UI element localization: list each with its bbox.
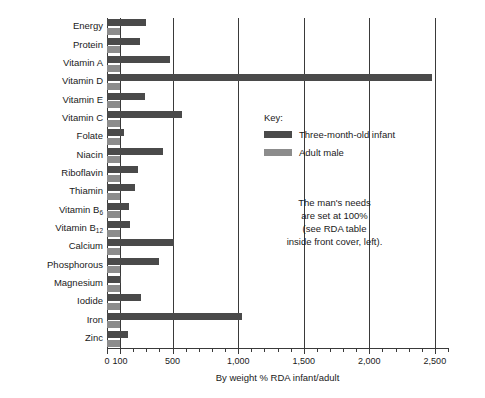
bar-adult [107,193,120,200]
bar-infant [107,129,124,136]
tick-minor [212,348,213,352]
bar-adult [107,138,120,145]
x-axis-title: By weight % RDA infant/adult [107,372,448,383]
bar-infant [107,221,130,228]
category-label: Riboflavin [0,167,103,178]
bar-infant [107,93,145,100]
bar-infant [107,203,129,210]
category-label: Vitamin D [0,75,103,86]
bar-infant [107,166,138,173]
tick-minor [278,348,279,352]
tick-minor [422,348,423,352]
tick-major [435,348,436,354]
category-label: Iodide [0,295,103,306]
rda-bar-chart: 01005001,0001,5002,0002,500 EnergyProtei… [0,0,485,398]
tick-minor [343,348,344,352]
x-tick-label: 2,000 [358,356,381,366]
tick-minor [448,348,449,352]
bar-infant [107,19,146,26]
tick-major [173,348,174,354]
gridline [304,18,305,348]
gridline [238,18,239,348]
legend-label-infant: Three-month-old infant [299,129,395,140]
bar-adult [107,83,120,90]
category-label: Energy [0,20,103,31]
category-label: Vitamin E [0,94,103,105]
tick-minor [225,348,226,352]
bar-infant [107,74,432,81]
x-tick-label: 2,500 [424,356,447,366]
annotation-note: The man's needs are set at 100% (see RDA… [252,196,417,248]
bar-infant [107,184,135,191]
tick-minor [146,348,147,352]
bar-adult [107,156,120,163]
bar-adult [107,101,120,108]
bar-infant [107,239,174,246]
tick-major [107,348,108,354]
legend-swatch-icon-infant [264,131,292,138]
category-label: Niacin [0,149,103,160]
category-label: Folate [0,130,103,141]
bar-infant [107,313,242,320]
tick-minor [409,348,410,352]
bar-adult [107,175,120,182]
category-label: Protein [0,39,103,50]
bar-infant [107,294,141,301]
bar-adult [107,211,120,218]
bar-infant [107,148,163,155]
bar-adult [107,120,120,127]
x-tick-label: 1,000 [227,356,250,366]
tick-major [238,348,239,354]
tick-minor [330,348,331,352]
category-label: Zinc [0,332,103,343]
bar-adult [107,248,120,255]
category-label: Iron [0,314,103,325]
gridline [173,18,174,348]
category-label: Phosphorous [0,259,103,270]
bar-infant [107,111,182,118]
tick-major [120,348,121,354]
category-label: Calcium [0,240,103,251]
bar-adult [107,340,120,347]
legend: Key: Three-month-old infant Adult male [264,112,395,165]
tick-minor [382,348,383,352]
bar-adult [107,28,120,35]
legend-entry-adult: Adult male [264,147,395,158]
tick-minor [264,348,265,352]
bar-adult [107,46,120,53]
tick-minor [251,348,252,352]
tick-major [369,348,370,354]
gridline [369,18,370,348]
tick-minor [356,348,357,352]
x-tick-label: 1,500 [292,356,315,366]
legend-swatch-icon-adult [264,149,292,156]
legend-entry-infant: Three-month-old infant [264,129,395,140]
tick-minor [291,348,292,352]
bar-adult [107,321,120,328]
x-tick-label: 100 [113,356,128,366]
category-label: Vitamin C [0,112,103,123]
tick-minor [199,348,200,352]
bar-adult [107,285,120,292]
x-tick-label: 500 [165,356,180,366]
tick-minor [186,348,187,352]
category-label: Vitamin A [0,57,103,68]
tick-minor [133,348,134,352]
tick-minor [396,348,397,352]
bar-adult [107,266,120,273]
bar-adult [107,65,120,72]
plot-area [107,18,448,348]
legend-label-adult: Adult male [299,147,344,158]
annotation-line-4: inside front cover, left). [252,235,417,248]
legend-title: Key: [264,112,395,123]
bar-infant [107,38,140,45]
tick-minor [317,348,318,352]
bar-infant [107,276,121,283]
tick-major [304,348,305,354]
bar-infant [107,56,170,63]
bar-adult [107,230,120,237]
bar-infant [107,258,159,265]
annotation-line-2: are set at 100% [252,209,417,222]
bar-infant [107,331,128,338]
category-label: Vitamin B12 [0,222,103,233]
